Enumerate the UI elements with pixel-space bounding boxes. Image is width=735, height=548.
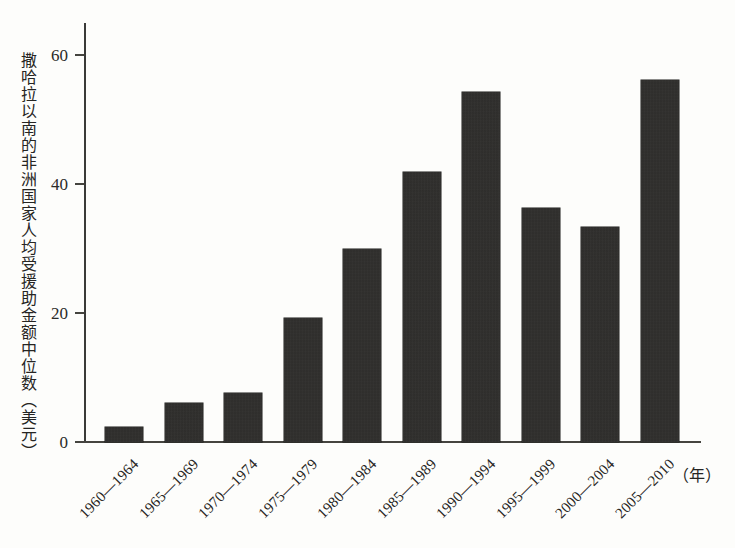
y-axis-tick [75,312,84,314]
x-axis-tick-label: 1980—1984 [314,456,380,522]
x-axis-tick-label: 1960—1964 [76,456,142,522]
y-axis-tick [75,54,84,56]
y-axis-tick-label: 60 [28,47,68,64]
y-axis-tick-label: 20 [28,305,68,322]
x-axis-tick-label: 1965—1969 [136,456,202,522]
x-axis-tick-label: 2005—2010 [612,456,678,522]
bar-2005-2010 [641,80,679,442]
y-axis-tick-label: 0 [28,434,68,451]
x-axis-tick-label: 1970—1974 [195,456,261,522]
bar-1970-1974 [224,393,262,442]
bar-1965-1969 [165,403,203,442]
x-axis-tick-label: 1985—1989 [374,456,440,522]
bar-1980-1984 [343,249,381,443]
bar-1975-1979 [284,318,322,442]
chart-figure: 撒哈拉以南的非洲国家人均受援助金额中位数（美元） 0204060 1960—19… [0,0,735,548]
bar-1995-1999 [522,208,560,442]
y-axis-tick [75,441,84,443]
x-axis-tick-label: 2000—2004 [552,456,618,522]
bar-1990-1994 [462,92,500,442]
x-axis-unit-label: （年） [673,462,721,486]
y-axis-title: 撒哈拉以南的非洲国家人均受援助金额中位数（美元） [14,52,40,432]
plot-area: 撒哈拉以南的非洲国家人均受援助金额中位数（美元） 0204060 1960—19… [0,0,735,548]
x-axis-tick-label: 1990—1994 [433,456,499,522]
x-axis-tick-label: 1995—1999 [493,456,559,522]
y-axis-tick [75,183,84,185]
bar-1985-1989 [403,172,441,442]
y-axis-tick-label: 40 [28,176,68,193]
bar-2000-2004 [581,227,619,442]
x-axis-tick-label: 1975—1979 [255,456,321,522]
y-axis-line [84,23,86,443]
bar-1960-1964 [105,427,143,442]
